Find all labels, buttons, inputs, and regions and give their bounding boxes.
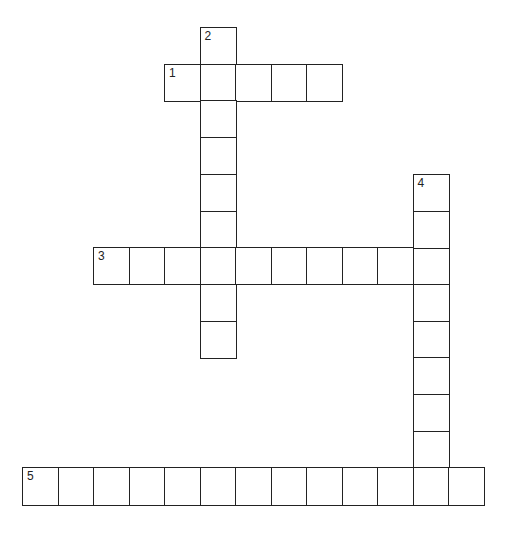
clue-number: 5 bbox=[27, 469, 34, 483]
crossword-cell[interactable] bbox=[200, 64, 237, 102]
crossword-cell[interactable]: 5 bbox=[22, 467, 59, 505]
clue-number: 3 bbox=[98, 249, 105, 263]
crossword-cell[interactable] bbox=[342, 467, 379, 505]
crossword-cell[interactable] bbox=[306, 64, 343, 102]
crossword-cell[interactable] bbox=[235, 64, 272, 102]
crossword-cell[interactable] bbox=[448, 467, 485, 505]
crossword-cell[interactable] bbox=[129, 467, 166, 505]
crossword-cell[interactable] bbox=[271, 467, 308, 505]
clue-number: 1 bbox=[169, 66, 176, 80]
clue-number: 4 bbox=[418, 176, 425, 190]
clue-number: 2 bbox=[205, 29, 212, 43]
crossword-cell[interactable] bbox=[342, 247, 379, 285]
crossword-cell[interactable] bbox=[413, 357, 450, 395]
crossword-cell[interactable] bbox=[271, 64, 308, 102]
crossword-cell[interactable] bbox=[200, 284, 237, 322]
crossword-cell[interactable] bbox=[271, 247, 308, 285]
crossword-cell[interactable] bbox=[164, 467, 201, 505]
crossword-cell[interactable] bbox=[413, 284, 450, 322]
crossword-cell[interactable] bbox=[306, 247, 343, 285]
crossword-cell[interactable] bbox=[93, 467, 130, 505]
crossword-cell[interactable] bbox=[377, 467, 414, 505]
crossword-cell[interactable] bbox=[164, 247, 201, 285]
crossword-cell[interactable] bbox=[413, 211, 450, 249]
crossword-cell[interactable] bbox=[413, 321, 450, 359]
crossword-cell[interactable] bbox=[235, 247, 272, 285]
crossword-cell[interactable] bbox=[129, 247, 166, 285]
crossword-cell[interactable] bbox=[306, 467, 343, 505]
crossword-cell[interactable] bbox=[377, 247, 414, 285]
crossword-cell[interactable] bbox=[200, 467, 237, 505]
crossword-cell[interactable] bbox=[200, 247, 237, 285]
crossword-cell[interactable]: 2 bbox=[200, 27, 237, 65]
crossword-cell[interactable] bbox=[58, 467, 95, 505]
crossword-cell[interactable] bbox=[200, 100, 237, 138]
crossword-grid: 12345 bbox=[0, 0, 507, 534]
crossword-cell[interactable]: 1 bbox=[164, 64, 201, 102]
crossword-cell[interactable] bbox=[413, 467, 450, 505]
crossword-cell[interactable]: 4 bbox=[413, 174, 450, 212]
crossword-cell[interactable] bbox=[200, 174, 237, 212]
crossword-cell[interactable] bbox=[200, 211, 237, 249]
crossword-cell[interactable] bbox=[413, 394, 450, 432]
crossword-cell[interactable] bbox=[200, 321, 237, 359]
crossword-cell[interactable] bbox=[413, 431, 450, 469]
crossword-cell[interactable] bbox=[200, 137, 237, 175]
crossword-cell[interactable]: 3 bbox=[93, 247, 130, 285]
crossword-cell[interactable] bbox=[235, 467, 272, 505]
crossword-cell[interactable] bbox=[413, 247, 450, 285]
